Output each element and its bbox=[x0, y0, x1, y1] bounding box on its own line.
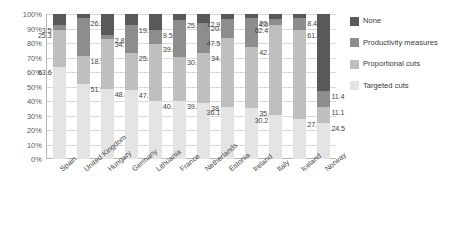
bar-value-label: 36.1 bbox=[206, 108, 220, 117]
stacked-bar[interactable]: 20.342.235.0 bbox=[245, 14, 258, 159]
bar-value-label: 25.3 bbox=[38, 31, 52, 40]
bar-segment[interactable]: 34.3 bbox=[101, 39, 114, 89]
bar-segment[interactable]: 42.2 bbox=[245, 47, 258, 108]
x-axis: SpainUnited KingdomHungaryGermanyLithuan… bbox=[47, 161, 336, 221]
legend-swatch-icon bbox=[350, 38, 359, 47]
bar-segment[interactable]: 11.1 bbox=[317, 107, 330, 123]
bar-value-label: 11.4 bbox=[331, 92, 344, 101]
bar-slot: 4.062.430.2 bbox=[264, 14, 288, 159]
stacked-bar[interactable]: 9.539.040.3 bbox=[149, 14, 162, 159]
y-axis-tick-label: 30% bbox=[27, 111, 42, 120]
bar-segment[interactable]: 30.2 bbox=[269, 115, 282, 159]
bar-slot: 11.411.124.5 bbox=[312, 14, 336, 159]
stacked-bar[interactable]: 11.411.124.5 bbox=[317, 14, 330, 159]
stacked-bar[interactable]: 26.218.951.9 bbox=[77, 14, 90, 159]
bar-segment[interactable]: 9.5 bbox=[149, 30, 162, 44]
legend-label: None bbox=[363, 16, 381, 26]
stacked-bar-chart: 100%90%80%70%60%50%40%30%20%10%0% 3.525.… bbox=[0, 0, 454, 240]
legend-item[interactable]: Productivity measures bbox=[350, 38, 454, 48]
bar-segment[interactable]: 25.1 bbox=[125, 53, 138, 89]
bar-segment[interactable]: 25.5 bbox=[173, 20, 186, 57]
x-axis-slot: United Kingdom bbox=[71, 161, 95, 221]
x-axis-slot: Hungary bbox=[95, 161, 119, 221]
bar-value-label: 63.6 bbox=[38, 68, 52, 77]
bar-value-label: 30.2 bbox=[255, 116, 269, 125]
bar-slot: 20.342.235.0 bbox=[240, 14, 264, 159]
stacked-bar[interactable]: 2.834.348.6 bbox=[101, 14, 114, 159]
x-axis-slot: Lithuania bbox=[143, 161, 167, 221]
bar-segment[interactable]: 51.9 bbox=[77, 84, 90, 159]
bar-slot: 26.218.951.9 bbox=[71, 14, 95, 159]
legend-item[interactable]: Targeted cuts bbox=[350, 81, 454, 91]
bar-slot: 8.461.127.9 bbox=[288, 14, 312, 159]
bar-segment[interactable]: 27.9 bbox=[293, 119, 306, 159]
bar-segment[interactable]: 61.1 bbox=[293, 30, 306, 119]
x-axis-slot: Germany bbox=[119, 161, 143, 221]
bar-segment[interactable]: 19.1 bbox=[125, 25, 138, 53]
bar-segment[interactable]: 26.2 bbox=[77, 18, 90, 56]
y-axis-tick-label: 40% bbox=[27, 97, 42, 106]
legend-label: Productivity measures bbox=[363, 38, 438, 48]
stacked-bar[interactable]: 20.634.438.9 bbox=[197, 14, 210, 159]
legend-swatch-icon bbox=[350, 81, 359, 90]
stacked-bar[interactable]: 3.525.363.6 bbox=[53, 14, 66, 159]
bar-segment[interactable]: 18.9 bbox=[77, 56, 90, 83]
bar-slot: 3.525.363.6 bbox=[47, 14, 71, 159]
bar-slot: 25.530.539.8 bbox=[167, 14, 191, 159]
bar-segment[interactable] bbox=[317, 14, 330, 91]
bar-value-label: 47.5 bbox=[206, 39, 220, 48]
x-axis-slot: Ireland bbox=[240, 161, 264, 221]
x-axis-slot: Norway bbox=[312, 161, 336, 221]
legend-label: Targeted cuts bbox=[363, 81, 409, 91]
bar-segment[interactable]: 11.4 bbox=[317, 91, 330, 108]
bar-segment[interactable]: 47.5 bbox=[221, 38, 234, 107]
y-axis-tick-label: 20% bbox=[27, 126, 42, 135]
legend-label: Proportional cuts bbox=[363, 59, 420, 69]
y-axis-tick-label: 100% bbox=[23, 10, 42, 19]
stacked-bar[interactable]: 25.530.539.8 bbox=[173, 14, 186, 159]
y-axis-tick-label: 10% bbox=[27, 140, 42, 149]
legend-swatch-icon bbox=[350, 17, 359, 26]
x-axis-slot: Italy bbox=[264, 161, 288, 221]
bar-segment[interactable]: 30.5 bbox=[173, 57, 186, 101]
bar-slot: 9.539.040.3 bbox=[143, 14, 167, 159]
bar-segment[interactable]: 63.6 bbox=[53, 67, 66, 159]
bars-container: 3.525.363.626.218.951.92.834.348.619.125… bbox=[47, 14, 336, 159]
bar-value-label: 24.5 bbox=[331, 124, 345, 133]
bar-value-label: 11.1 bbox=[331, 108, 344, 117]
bar-slot: 12.947.536.1 bbox=[216, 14, 240, 159]
bar-segment[interactable]: 12.9 bbox=[221, 19, 234, 38]
y-axis-tick-label: 0% bbox=[31, 155, 42, 164]
bar-slot: 20.634.438.9 bbox=[191, 14, 215, 159]
y-axis: 100%90%80%70%60%50%40%30%20%10%0% bbox=[0, 14, 42, 159]
x-axis-slot: Iceland bbox=[288, 161, 312, 221]
stacked-bar[interactable]: 8.461.127.9 bbox=[293, 14, 306, 159]
y-axis-tick-label: 70% bbox=[27, 53, 42, 62]
bar-value-label: 62.4 bbox=[255, 26, 269, 35]
x-axis-slot: France bbox=[167, 161, 191, 221]
y-axis-tick-label: 50% bbox=[27, 82, 42, 91]
stacked-bar[interactable]: 12.947.536.1 bbox=[221, 14, 234, 159]
legend-item[interactable]: None bbox=[350, 16, 454, 26]
bar-segment[interactable]: 39.0 bbox=[149, 44, 162, 101]
bar-segment[interactable]: 62.4 bbox=[269, 25, 282, 115]
bar-segment[interactable] bbox=[101, 14, 114, 35]
legend-swatch-icon bbox=[350, 60, 359, 69]
chart-legend: NoneProductivity measuresProportional cu… bbox=[350, 16, 454, 102]
bar-segment[interactable] bbox=[125, 14, 138, 25]
bar-segment[interactable]: 34.4 bbox=[197, 53, 210, 103]
x-axis-slot: Estonia bbox=[216, 161, 240, 221]
bar-segment[interactable]: 25.3 bbox=[53, 30, 66, 67]
bar-segment[interactable] bbox=[53, 14, 66, 25]
x-axis-slot: Spain bbox=[47, 161, 71, 221]
legend-item[interactable]: Proportional cuts bbox=[350, 59, 454, 69]
x-axis-slot: Netherlands bbox=[191, 161, 215, 221]
stacked-bar[interactable]: 4.062.430.2 bbox=[269, 14, 282, 159]
bar-segment[interactable] bbox=[149, 14, 162, 30]
bar-segment[interactable]: 8.4 bbox=[293, 18, 306, 30]
bar-value-label: 12.9 bbox=[206, 20, 220, 29]
